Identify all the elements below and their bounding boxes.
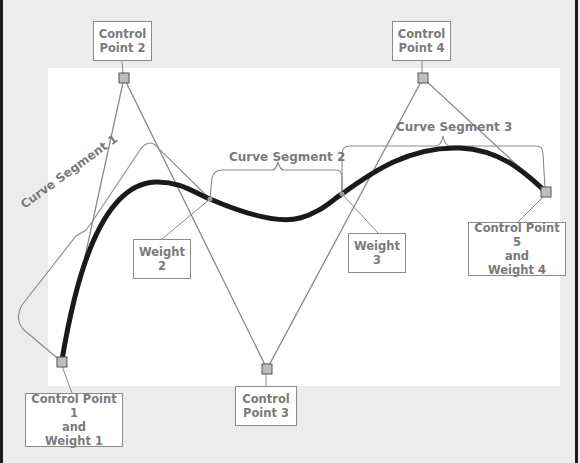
label-line: Control [99, 27, 147, 41]
control-point-3-handle[interactable] [262, 364, 272, 374]
label-line: 3 [373, 253, 381, 267]
label-line: Control [242, 392, 290, 406]
label-line: 2 [158, 259, 166, 273]
brace-segment-2 [210, 162, 342, 199]
control-point-2-label: Control Point 2 [93, 21, 152, 61]
label-line: and [62, 420, 86, 434]
diagram-frame: Curve Segment 1 Curve Segment 2 Curve Se… [0, 0, 580, 463]
control-point-1-label: Control Point 1 and Weight 1 [25, 393, 123, 447]
weight-3-label: Weight 3 [348, 233, 406, 273]
label-line: Weight [354, 239, 400, 253]
leader-w3 [342, 194, 378, 233]
label-line: Point 2 [100, 41, 146, 55]
weight-point-2[interactable] [208, 197, 213, 202]
control-point-4-handle[interactable] [418, 73, 428, 83]
segment-3-label: Curve Segment 3 [396, 120, 512, 134]
label-line: Control Point 5 [469, 221, 565, 249]
control-point-4-label: Control Point 4 [392, 21, 451, 61]
label-line: Control [398, 27, 446, 41]
control-point-3-label: Control Point 3 [235, 386, 297, 426]
weight-2-label: Weight 2 [133, 239, 191, 279]
control-point-1-handle[interactable] [57, 357, 67, 367]
label-line: Control Point 1 [26, 392, 122, 420]
label-line: Weight 1 [45, 434, 103, 448]
label-line: Point 4 [399, 41, 445, 55]
leader-cp2 [122, 61, 123, 74]
weight-point-3[interactable] [340, 192, 345, 197]
control-point-5-label: Control Point 5 and Weight 4 [468, 222, 566, 276]
label-line: Weight [139, 245, 185, 259]
label-line: Weight 4 [488, 263, 546, 277]
control-point-2-handle[interactable] [119, 73, 129, 83]
leader-cp1 [62, 366, 72, 393]
control-point-5-handle[interactable] [541, 187, 551, 197]
segment-2-label: Curve Segment 2 [229, 150, 345, 164]
leader-cp5 [518, 196, 544, 222]
label-line: and [505, 249, 529, 263]
label-line: Point 3 [243, 406, 289, 420]
